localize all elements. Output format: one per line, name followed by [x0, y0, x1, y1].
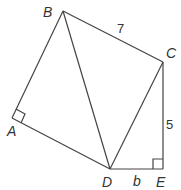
segment-bc	[63, 11, 163, 62]
segment-ab	[12, 11, 63, 118]
segment-cd	[110, 62, 163, 169]
label-d: D	[102, 174, 112, 190]
right-angle-marker-e	[153, 159, 163, 169]
label-e: E	[156, 174, 166, 190]
segment-bd	[63, 11, 110, 169]
segment-ad	[12, 118, 110, 169]
label-b: B	[43, 4, 52, 20]
geometry-diagram: A B C D E 7 5 b	[0, 0, 181, 190]
segments	[12, 11, 163, 169]
length-ce: 5	[166, 117, 173, 132]
length-de: b	[133, 173, 141, 189]
length-bc: 7	[117, 21, 124, 36]
label-c: C	[166, 45, 177, 61]
label-a: A	[6, 123, 16, 139]
